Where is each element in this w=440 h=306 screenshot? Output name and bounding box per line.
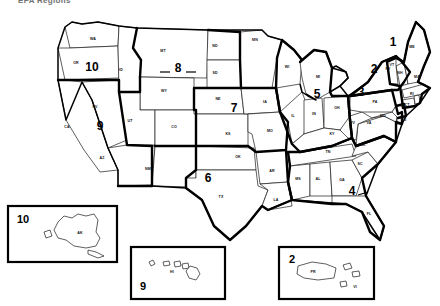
state-label-WY: WY — [161, 89, 167, 93]
state-label-GA: GA — [339, 178, 345, 182]
state-AR — [256, 150, 288, 184]
state-label-MO: MO — [267, 129, 273, 133]
state-label-MA: MA — [414, 75, 420, 79]
state-label-CO: CO — [171, 125, 177, 129]
state-label-ID: ID — [119, 68, 123, 72]
inset-state-HI: HI — [170, 270, 174, 274]
region-number-7[interactable]: 7 — [231, 101, 238, 115]
state-label-ME: ME — [409, 45, 415, 49]
inset-state-PR: PR — [310, 270, 315, 274]
state-MT — [133, 28, 208, 78]
state-label-KY: KY — [329, 132, 335, 136]
state-label-VT: VT — [390, 63, 395, 67]
state-label-MN: MN — [252, 38, 258, 42]
state-label-SC: SC — [357, 162, 362, 166]
state-label-MS: MS — [295, 177, 301, 181]
state-label-CA: CA — [64, 125, 70, 129]
region-number-1[interactable]: 1 — [390, 35, 397, 49]
state-OK — [196, 146, 256, 170]
state-IA — [241, 88, 280, 114]
state-label-NY: NY — [385, 67, 391, 71]
state-label-AZ: AZ — [100, 156, 106, 160]
state-label-SD: SD — [212, 71, 217, 75]
region-number-6[interactable]: 6 — [205, 171, 212, 185]
state-label-NH: NH — [397, 71, 403, 75]
page-title: EPA Regions — [18, 0, 71, 5]
state-label-NC: NC — [360, 143, 366, 147]
region-number-9[interactable]: 9 — [97, 119, 104, 133]
alaska-inset: AK 10 — [8, 206, 117, 262]
state-label-TN: TN — [326, 150, 331, 154]
inset-state-AK: AK — [77, 231, 83, 235]
region-number-8[interactable]: 8 — [175, 61, 182, 75]
state-KS — [196, 114, 248, 146]
inset-region-10: 10 — [17, 213, 29, 225]
region-number-4[interactable]: 4 — [349, 184, 356, 198]
state-label-UT: UT — [128, 119, 134, 123]
state-label-WA: WA — [90, 37, 96, 41]
state-label-OK: OK — [235, 155, 241, 159]
region-number-5[interactable]: 5 — [314, 87, 321, 101]
state-WY — [140, 77, 194, 110]
state-label-NE: NE — [215, 97, 221, 101]
state-label-IN: IN — [312, 112, 316, 116]
inset-region-9: 9 — [140, 280, 146, 292]
puerto-rico-inset: PR VI 2 — [279, 247, 374, 299]
map-svg: WAORIDMTNDSDWYNVCAUTCOAZNMNEKSOKTXMNIAMO… — [0, 0, 440, 306]
region-number-2[interactable]: 2 — [371, 62, 378, 76]
state-label-OH: OH — [334, 106, 340, 110]
state-label-MI: MI — [316, 75, 320, 79]
state-label-MD: MD — [380, 114, 386, 118]
state-label-KS: KS — [225, 132, 231, 136]
us-epa-regions-map: EPA Regions — [0, 0, 440, 306]
state-label-IA: IA — [263, 100, 267, 104]
state-label-WI: WI — [285, 65, 290, 69]
state-label-AL: AL — [316, 177, 322, 181]
state-WA — [65, 22, 119, 48]
state-label-VA: VA — [367, 121, 372, 125]
state-label-RI: RI — [410, 92, 414, 96]
state-label-MT: MT — [160, 49, 166, 53]
state-label-OR: OR — [73, 61, 79, 65]
region-number-10[interactable]: 10 — [85, 60, 99, 74]
state-label-NM: NM — [145, 167, 151, 171]
state-label-FL: FL — [367, 212, 372, 216]
state-label-TX: TX — [219, 195, 224, 199]
state-TX — [186, 170, 268, 240]
state-label-NV: NV — [92, 105, 98, 109]
state-label-AR: AR — [269, 169, 275, 173]
state-label-PA: PA — [373, 100, 378, 104]
region-number-3[interactable]: 3 — [358, 85, 365, 99]
state-AL — [310, 162, 332, 196]
state-label-LA: LA — [274, 198, 279, 202]
state-label-DE: DE — [401, 118, 407, 122]
hawaii-inset: HI 9 — [131, 247, 225, 299]
inset-state-VI: VI — [353, 285, 357, 289]
state-label-CT: CT — [405, 103, 411, 107]
state-label-WV: WV — [349, 121, 355, 125]
state-label-ND: ND — [212, 44, 218, 48]
inset-region-2: 2 — [289, 253, 295, 265]
